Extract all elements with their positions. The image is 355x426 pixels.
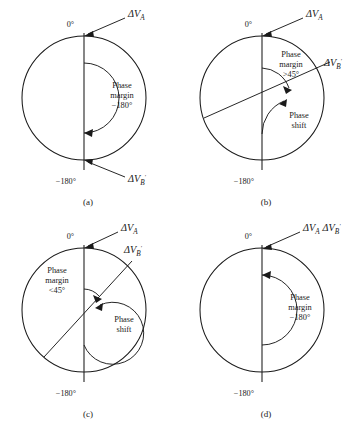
vector-a-arrowhead (84, 31, 94, 37)
phase-margin-note-line1: Phase (112, 81, 132, 90)
figure-root: 0° −180° ΔVA ΔVB′ Phase margin −180° (a) (0, 0, 355, 426)
phase-margin-note-line3: <45° (49, 286, 65, 295)
panel-c: 0° −180° ΔVA ΔVB′ Phase margin <45° Phas… (0, 209, 177, 422)
panel-caption: (d) (261, 409, 272, 419)
phase-margin-note-line2: margin (288, 303, 312, 312)
panel-d-diagram: 0° −180° ΔVAΔVB′ Phase margin −180° (d) (178, 209, 355, 422)
phase-shift-note-line1: Phase (289, 111, 309, 120)
phase-margin-arc (84, 289, 99, 296)
bottom-axis-label: −180° (234, 389, 254, 398)
phase-margin-note-line2: margin (279, 60, 303, 69)
vector-b-subscript: B (335, 228, 340, 236)
vector-a-label: ΔVA (127, 8, 145, 22)
phase-margin-note-line2: margin (110, 91, 134, 100)
vector-a-leader (266, 18, 303, 34)
vector-b-label: ΔVB′ (323, 57, 343, 71)
panel-a: 0° −180° ΔVA ΔVB′ Phase margin −180° (a) (0, 0, 177, 213)
vector-a-arrowhead (84, 243, 94, 249)
vector-b-leader (88, 162, 125, 177)
panel-d: 0° −180° ΔVAΔVB′ Phase margin −180° (d) (178, 209, 355, 422)
top-axis-label: 0° (245, 20, 252, 29)
bottom-axis-label: −180° (234, 177, 254, 186)
vector-b-ray (204, 62, 330, 118)
vector-a-subscript: A (317, 14, 323, 22)
phase-margin-note-line1: Phase (290, 293, 310, 302)
vector-a-subscript: A (314, 228, 320, 236)
bottom-axis-label: −180° (56, 389, 76, 398)
panel-a-diagram: 0° −180° ΔVA ΔVB′ Phase margin −180° (a) (0, 0, 177, 213)
vector-b-subscript: B (140, 179, 145, 187)
phase-shift-note-line2: shift (292, 121, 308, 130)
phase-margin-note-line3: >45° (283, 70, 299, 79)
panel-b: 0° −180° ΔVA ΔVB′ Phase margin >45° Phas… (178, 0, 355, 213)
bottom-axis-label: −180° (56, 177, 76, 186)
vector-a-subscript: A (139, 14, 145, 22)
vector-b-label: ΔVB′ (123, 244, 143, 258)
combined-vector-label: ΔVAΔVB′ (302, 222, 341, 236)
phase-margin-note-line3: −180° (112, 101, 133, 110)
phase-margin-arc-arrowhead (262, 271, 271, 279)
top-axis-label: 0° (67, 232, 74, 241)
panel-b-diagram: 0° −180° ΔVA ΔVB′ Phase margin >45° Phas… (178, 0, 355, 213)
vector-a-leader (88, 18, 125, 34)
vector-b-prime: ′ (141, 245, 143, 251)
phase-shift-arc (262, 101, 284, 134)
vector-b-prime: ′ (145, 174, 147, 180)
panel-c-diagram: 0° −180° ΔVA ΔVB′ Phase margin <45° Phas… (0, 209, 177, 422)
phase-margin-note-line1: Phase (281, 50, 301, 59)
phase-shift-note-line2: shift (117, 325, 133, 334)
top-axis-label: 0° (245, 232, 252, 241)
phase-margin-arc-arrowhead (84, 129, 93, 137)
vector-b-subscript: B (336, 63, 341, 71)
vector-b-arrowhead (84, 159, 93, 165)
phase-margin-note-line3: −180° (290, 313, 311, 322)
phase-margin-note-line1: Phase (47, 266, 67, 275)
combined-vector-arrowhead (262, 244, 272, 250)
phase-margin-note-line2: margin (45, 276, 69, 285)
vector-a-label: ΔVA (305, 8, 323, 22)
vector-a-label: ΔVA (120, 222, 138, 236)
vector-b-subscript: B (136, 250, 141, 258)
vector-b-label: ΔVB′ (127, 173, 147, 187)
panel-caption: (a) (83, 197, 93, 207)
panel-caption: (c) (83, 409, 93, 419)
phase-shift-arc (84, 302, 144, 364)
top-axis-label: 0° (67, 20, 74, 29)
phase-shift-note-line1: Phase (114, 315, 134, 324)
phase-margin-arc-arrowhead (283, 86, 292, 94)
vector-b-prime: ′ (339, 223, 341, 229)
vector-a-subscript: A (132, 228, 138, 236)
vector-a-arrowhead (262, 31, 272, 37)
panel-caption: (b) (261, 197, 272, 207)
phase-shift-arc-arrowhead (95, 303, 103, 311)
vector-b-prime: ′ (341, 58, 343, 64)
